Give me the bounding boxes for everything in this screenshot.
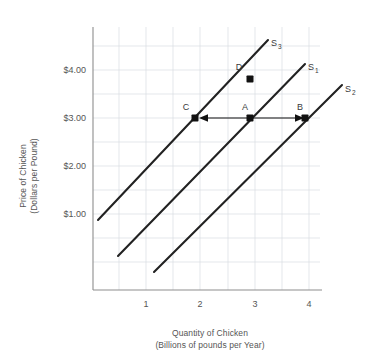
grid-horizontal-lines xyxy=(93,46,320,262)
axes xyxy=(93,27,322,290)
chart-svg: $4.00 $3.00 $2.00 $1.00 1 2 3 4 S 3 S xyxy=(0,0,365,360)
y-axis-title-line2: (Dollars per Pound) xyxy=(29,138,39,214)
data-point-d-label: D xyxy=(236,62,243,72)
y-tick-label-2: $2.00 xyxy=(63,161,86,171)
supply-curve-s3 xyxy=(98,40,268,220)
x-tick-label-2: 2 xyxy=(197,299,202,309)
arrowhead-left xyxy=(199,114,208,122)
curve-label-s1: S 1 xyxy=(308,62,319,74)
supply-curve-chart: $4.00 $3.00 $2.00 $1.00 1 2 3 4 S 3 S xyxy=(0,0,365,360)
x-tick-label-4: 4 xyxy=(306,299,311,309)
x-tick-label-1: 1 xyxy=(143,299,148,309)
y-tick-label-1: $1.00 xyxy=(63,209,86,219)
x-axis-title-line1: Quantity of Chicken xyxy=(172,328,248,338)
x-axis-title-line2: (Billions of pounds per Year) xyxy=(155,340,264,350)
data-point-b-label: B xyxy=(297,102,303,112)
curve-label-s2-subscript: 2 xyxy=(352,89,356,96)
y-axis-title-line1: Price of Chicken xyxy=(18,144,28,208)
curve-label-s3-text: S xyxy=(271,38,277,48)
curve-label-s1-text: S xyxy=(308,62,314,72)
curve-label-s3: S 3 xyxy=(271,38,282,50)
x-tick-label-3: 3 xyxy=(252,299,257,309)
x-tick-labels: 1 2 3 4 xyxy=(143,299,311,309)
y-axis-title: Price of Chicken (Dollars per Pound) xyxy=(18,138,39,214)
curve-label-s2: S 2 xyxy=(345,84,356,96)
data-point-c-label: C xyxy=(183,102,190,112)
curve-label-s2-text: S xyxy=(345,84,351,94)
y-tick-label-3: $3.00 xyxy=(63,113,86,123)
curve-label-s3-subscript: 3 xyxy=(278,43,282,50)
data-point-a-label: A xyxy=(242,102,248,112)
y-tick-label-4: $4.00 xyxy=(63,65,86,75)
x-axis-title: Quantity of Chicken (Billions of pounds … xyxy=(155,328,264,350)
y-tick-labels: $4.00 $3.00 $2.00 $1.00 xyxy=(63,65,86,219)
curve-label-s1-subscript: 1 xyxy=(315,67,319,74)
data-point-c: C xyxy=(183,102,199,122)
supply-curve-s2 xyxy=(154,85,342,272)
